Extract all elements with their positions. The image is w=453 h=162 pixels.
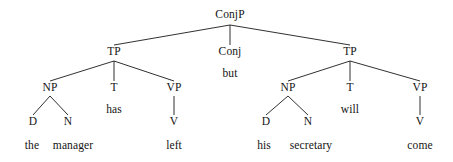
leaf-word-word-secretary: secretary bbox=[290, 140, 332, 152]
tree-edge-np-left-to-n-left bbox=[50, 96, 68, 115]
leaf-word-word-come: come bbox=[407, 140, 432, 152]
tree-node-d-left: D bbox=[29, 116, 37, 128]
tree-node-t-left: T bbox=[110, 82, 117, 94]
tree-node-n-left: N bbox=[64, 116, 72, 128]
tree-node-conjp: ConjP bbox=[215, 9, 244, 21]
leaf-word-word-his: his bbox=[257, 140, 271, 152]
leaf-word-word-the: the bbox=[25, 140, 39, 152]
tree-node-np-right: NP bbox=[281, 82, 296, 94]
tree-edges bbox=[0, 0, 453, 162]
tree-edge-conjp-to-tp-right bbox=[230, 25, 350, 45]
tree-node-np-left: NP bbox=[43, 82, 58, 94]
leaf-word-t-left-word: has bbox=[106, 104, 122, 116]
leaf-word-word-left: left bbox=[166, 140, 182, 152]
leaf-word-conj-word: but bbox=[223, 68, 238, 80]
tree-node-n-right: N bbox=[304, 116, 312, 128]
tree-edge-tp-right-to-vp-right bbox=[350, 61, 420, 81]
tree-node-conj: Conj bbox=[219, 46, 242, 58]
tree-edge-tp-right-to-np-right bbox=[288, 61, 350, 81]
tree-node-tp-right: TP bbox=[343, 46, 357, 58]
tree-node-t-right: T bbox=[346, 82, 353, 94]
syntax-tree-figure: ConjPTPConjTPbutNPTVPNPTVPhaswillDNVDNVt… bbox=[0, 0, 453, 162]
tree-edge-tp-left-to-np-left bbox=[50, 61, 114, 81]
tree-edge-conjp-to-tp-left bbox=[114, 25, 230, 45]
tree-node-vp-left: VP bbox=[167, 82, 182, 94]
tree-node-d-right: D bbox=[262, 116, 270, 128]
tree-edge-tp-left-to-vp-left bbox=[114, 61, 174, 81]
tree-node-vp-right: VP bbox=[413, 82, 428, 94]
leaf-word-t-right-word: will bbox=[341, 104, 359, 116]
leaf-word-word-manager: manager bbox=[53, 140, 93, 152]
tree-edge-np-left-to-d-left bbox=[33, 96, 50, 115]
tree-edge-np-right-to-d-right bbox=[266, 96, 288, 115]
tree-node-v-right: V bbox=[416, 116, 424, 128]
tree-node-v-left: V bbox=[170, 116, 178, 128]
tree-edge-np-right-to-n-right bbox=[288, 96, 308, 115]
tree-node-tp-left: TP bbox=[107, 46, 121, 58]
